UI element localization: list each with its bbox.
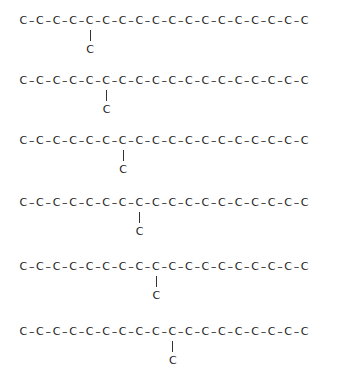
carbon-atom: C <box>101 196 112 209</box>
carbon-atom: C <box>68 196 79 209</box>
carbon-atom: C <box>217 260 228 273</box>
carbon-atom: C <box>217 134 228 147</box>
carbon-atom: C <box>217 196 228 209</box>
carbon-atom: C <box>233 260 244 273</box>
main-chain: C–C–C–C–C–C–C–C–C–C–C–C–C–C–C–C–C–C <box>18 74 310 87</box>
carbon-atom: C <box>200 260 211 273</box>
branch-bond <box>139 212 140 223</box>
carbon-atom: C <box>150 14 161 27</box>
methyl-branch-carbon: C <box>152 289 160 302</box>
carbon-atom: C <box>101 14 112 27</box>
carbon-atom: C <box>217 74 228 87</box>
branch-bond <box>90 30 91 41</box>
carbon-atom: C <box>233 14 244 27</box>
main-chain: C–C–C–C–C–C–C–C–C–C–C–C–C–C–C–C–C–C <box>18 260 310 273</box>
carbon-atom: C <box>134 14 145 27</box>
carbon-atom: C <box>18 134 29 147</box>
carbon-atom: C <box>183 325 194 338</box>
main-chain: C–C–C–C–C–C–C–C–C–C–C–C–C–C–C–C–C–C <box>18 14 310 27</box>
carbon-atom: C <box>167 134 178 147</box>
carbon-atom: C <box>299 196 310 209</box>
carbon-atom: C <box>101 260 112 273</box>
carbon-atom: C <box>167 196 178 209</box>
carbon-atom: C <box>68 14 79 27</box>
main-chain: C–C–C–C–C–C–C–C–C–C–C–C–C–C–C–C–C–C <box>18 325 310 338</box>
carbon-atom: C <box>250 196 261 209</box>
carbon-atom: C <box>150 134 161 147</box>
carbon-atom: C <box>183 260 194 273</box>
carbon-atom: C <box>299 260 310 273</box>
carbon-atom: C <box>233 196 244 209</box>
carbon-atom: C <box>266 196 277 209</box>
methyl-branch-carbon: C <box>119 163 127 176</box>
carbon-atom: C <box>84 74 95 87</box>
carbon-atom: C <box>18 260 29 273</box>
branch-bond <box>172 341 173 352</box>
carbon-atom: C <box>250 260 261 273</box>
carbon-atom: C <box>35 14 46 27</box>
carbon-atom: C <box>150 260 161 273</box>
carbon-atom: C <box>117 325 128 338</box>
carbon-atom: C <box>134 196 145 209</box>
branch-bond <box>123 150 124 161</box>
carbon-atom: C <box>134 325 145 338</box>
carbon-atom: C <box>283 260 294 273</box>
carbon-atom: C <box>101 74 112 87</box>
carbon-atom: C <box>250 74 261 87</box>
carbon-atom: C <box>183 14 194 27</box>
methyl-branch-carbon: C <box>103 103 111 116</box>
carbon-atom: C <box>217 325 228 338</box>
carbon-atom: C <box>283 196 294 209</box>
carbon-atom: C <box>84 134 95 147</box>
carbon-atom: C <box>167 260 178 273</box>
carbon-atom: C <box>117 134 128 147</box>
carbon-atom: C <box>299 74 310 87</box>
carbon-atom: C <box>200 196 211 209</box>
carbon-atom: C <box>134 260 145 273</box>
branch-bond <box>156 276 157 287</box>
carbon-atom: C <box>167 74 178 87</box>
carbon-atom: C <box>84 260 95 273</box>
carbon-atom: C <box>51 196 62 209</box>
carbon-atom: C <box>117 260 128 273</box>
carbon-atom: C <box>167 14 178 27</box>
carbon-atom: C <box>84 196 95 209</box>
carbon-atom: C <box>299 134 310 147</box>
carbon-atom: C <box>117 14 128 27</box>
carbon-atom: C <box>299 325 310 338</box>
carbon-atom: C <box>51 325 62 338</box>
carbon-atom: C <box>283 14 294 27</box>
carbon-atom: C <box>299 14 310 27</box>
carbon-atom: C <box>35 325 46 338</box>
carbon-atom: C <box>200 325 211 338</box>
main-chain: C–C–C–C–C–C–C–C–C–C–C–C–C–C–C–C–C–C <box>18 134 310 147</box>
carbon-atom: C <box>283 134 294 147</box>
carbon-atom: C <box>84 14 95 27</box>
carbon-atom: C <box>68 325 79 338</box>
carbon-atom: C <box>117 196 128 209</box>
carbon-atom: C <box>250 14 261 27</box>
carbon-atom: C <box>200 74 211 87</box>
carbon-atom: C <box>35 260 46 273</box>
carbon-atom: C <box>68 74 79 87</box>
carbon-atom: C <box>183 134 194 147</box>
methyl-branch-carbon: C <box>86 43 94 56</box>
carbon-atom: C <box>35 196 46 209</box>
carbon-atom: C <box>18 74 29 87</box>
carbon-atom: C <box>51 260 62 273</box>
carbon-atom: C <box>18 325 29 338</box>
carbon-atom: C <box>266 325 277 338</box>
carbon-atom: C <box>68 260 79 273</box>
carbon-atom: C <box>233 74 244 87</box>
carbon-atom: C <box>68 134 79 147</box>
carbon-atom: C <box>266 74 277 87</box>
carbon-atom: C <box>250 134 261 147</box>
methyl-branch-carbon: C <box>136 225 144 238</box>
carbon-atom: C <box>167 325 178 338</box>
carbon-atom: C <box>183 196 194 209</box>
carbon-atom: C <box>266 260 277 273</box>
carbon-atom: C <box>150 196 161 209</box>
carbon-atom: C <box>266 134 277 147</box>
carbon-atom: C <box>51 134 62 147</box>
carbon-atom: C <box>35 74 46 87</box>
